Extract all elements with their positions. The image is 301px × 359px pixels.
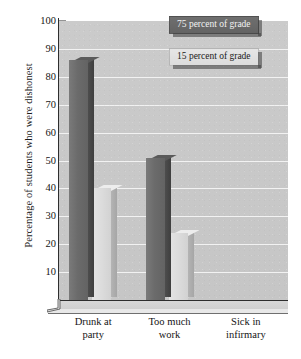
y-tick-label-20: 20 bbox=[22, 239, 56, 250]
bar-series75-cat1[interactable] bbox=[146, 158, 165, 300]
bar-series75-cat0[interactable] bbox=[69, 60, 88, 300]
bar-series15-cat0[interactable] bbox=[92, 188, 111, 300]
y-tick-label-40: 40 bbox=[22, 183, 56, 194]
bar-front-face bbox=[146, 158, 165, 300]
bar-side-face bbox=[111, 185, 117, 297]
legend-label-1: 15 percent of grade bbox=[169, 48, 259, 66]
bar-side-face bbox=[165, 155, 171, 297]
x-category-label-2: Sick ininfirmary bbox=[201, 315, 291, 341]
y-tick-label-50: 50 bbox=[22, 155, 56, 166]
x-category-line1: Sick in bbox=[231, 316, 260, 327]
legend-label-0: 75 percent of grade bbox=[169, 16, 259, 34]
chart-base-left-edge bbox=[47, 299, 61, 313]
x-category-line2: infirmary bbox=[201, 328, 291, 341]
y-tick-label-80: 80 bbox=[22, 72, 56, 83]
bar-front-face bbox=[169, 233, 188, 300]
bar-side-face bbox=[88, 57, 94, 297]
x-category-line1: Too much bbox=[148, 316, 190, 327]
legend-item-75-percent[interactable]: 75 percent of grade bbox=[169, 16, 259, 34]
y-tick-label-10: 10 bbox=[22, 267, 56, 278]
y-tick-label-60: 60 bbox=[22, 127, 56, 138]
y-tick-label-30: 30 bbox=[22, 211, 56, 222]
bar-chart: Percentage of students who were dishones… bbox=[0, 0, 301, 359]
x-category-line1: Drunk at bbox=[75, 316, 112, 327]
y-tick-label-70: 70 bbox=[22, 99, 56, 110]
bar-front-face bbox=[69, 60, 88, 300]
y-tick-label-90: 90 bbox=[22, 44, 56, 55]
x-axis-category-labels: Drunk atpartyToo muchworkSick ininfirmar… bbox=[59, 315, 288, 355]
y-tick-label-100: 100 bbox=[22, 16, 56, 27]
bar-series15-cat1[interactable] bbox=[169, 233, 188, 300]
legend-item-15-percent[interactable]: 15 percent of grade bbox=[169, 48, 259, 66]
chart-base-front bbox=[48, 309, 288, 314]
bar-side-face bbox=[188, 230, 194, 297]
bar-front-face bbox=[92, 188, 111, 300]
